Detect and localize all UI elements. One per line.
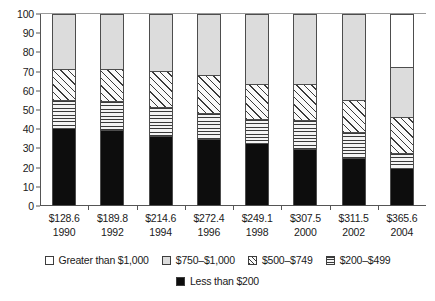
y-axis-tick-label: 30 [23, 142, 34, 154]
x-axis-label-year: 1996 [185, 226, 233, 240]
bar-segment [343, 159, 365, 205]
legend-item[interactable]: Greater than $1,000 [45, 254, 149, 266]
x-axis-label-year: 1994 [137, 226, 185, 240]
x-axis-tick-mark [185, 206, 186, 210]
legend-row-1: Greater than $1,000$750–$1,000$500–$749$… [0, 252, 435, 268]
stacked-bar [293, 14, 317, 206]
bar-segment [246, 85, 268, 119]
y-axis-tick-label: 40 [23, 123, 34, 135]
bar-segment [246, 144, 268, 205]
stacked-bar [52, 14, 76, 206]
x-axis-label-amount: $128.6 [40, 212, 88, 226]
x-axis-label: $307.52000 [281, 212, 329, 239]
legend: Greater than $1,000$750–$1,000$500–$749$… [0, 252, 435, 289]
bar-segment [246, 120, 268, 145]
bar-segment [198, 15, 220, 76]
x-axis-label-year: 2004 [378, 226, 426, 240]
legend-swatch-icon [162, 256, 171, 265]
x-axis-label-amount: $311.5 [330, 212, 378, 226]
legend-swatch-icon [45, 256, 54, 265]
bar-segment [391, 118, 413, 154]
x-axis-tick-mark [137, 206, 138, 210]
bar-segment [150, 108, 172, 137]
bar-segment [391, 154, 413, 169]
bar-segment [198, 76, 220, 114]
x-axis-label: $365.62004 [378, 212, 426, 239]
legend-item[interactable]: $200–$499 [326, 254, 391, 266]
bar-column [293, 14, 317, 206]
legend-item-label: $500–$749 [262, 254, 313, 266]
legend-item[interactable]: $500–$749 [248, 254, 313, 266]
x-axis-label-amount: $214.6 [137, 212, 185, 226]
y-axis-tick-label: 10 [23, 181, 34, 193]
bar-segment [53, 129, 75, 205]
x-axis-label-year: 1992 [88, 226, 136, 240]
x-axis-label-year: 1998 [233, 226, 281, 240]
bar-segment [294, 150, 316, 205]
x-axis-tick-mark [88, 206, 89, 210]
bar-segment [53, 15, 75, 70]
bar-segment [246, 15, 268, 85]
y-axis-tick-label: 0 [28, 200, 34, 212]
stacked-bar-chart: 0102030405060708090100 $128.61990$189.81… [0, 0, 435, 301]
bar-segment [150, 137, 172, 205]
x-axis-label-amount: $189.8 [88, 212, 136, 226]
x-axis-tick-mark [330, 206, 331, 210]
legend-item-label: Less than $200 [190, 275, 259, 287]
stacked-bar [390, 14, 414, 206]
x-axis-label: $311.52002 [330, 212, 378, 239]
stacked-bar [149, 14, 173, 206]
bar-segment [150, 15, 172, 72]
legend-swatch-icon [248, 256, 257, 265]
legend-item-label: $750–$1,000 [176, 254, 235, 266]
bar-segment [391, 169, 413, 205]
bar-segment [391, 15, 413, 68]
x-axis-tick-mark [233, 206, 234, 210]
bar-column [390, 14, 414, 206]
stacked-bar [342, 14, 366, 206]
x-axis-label-amount: $249.1 [233, 212, 281, 226]
x-axis-label: $214.61994 [137, 212, 185, 239]
y-axis-tick-label: 100 [17, 8, 34, 20]
legend-swatch-icon [176, 277, 185, 286]
y-axis-tick-label: 70 [23, 66, 34, 78]
bar-segment [53, 101, 75, 130]
bar-segment [294, 121, 316, 150]
bar-column [100, 14, 124, 206]
bar-column [245, 14, 269, 206]
x-axis-tick-mark [378, 206, 379, 210]
legend-swatch-icon [326, 256, 335, 265]
y-axis-tick-label: 50 [23, 104, 34, 116]
bar-segment [343, 133, 365, 160]
bar-segment [150, 72, 172, 108]
x-axis-tick-mark [281, 206, 282, 210]
x-axis-label-amount: $307.5 [281, 212, 329, 226]
x-axis-label: $249.11998 [233, 212, 281, 239]
bar-segment [101, 70, 123, 102]
bar-segment [198, 114, 220, 141]
bar-column [52, 14, 76, 206]
bar-segment [101, 15, 123, 70]
bar-segment [294, 15, 316, 85]
x-axis-label: $128.61990 [40, 212, 88, 239]
x-axis-label-year: 2000 [281, 226, 329, 240]
x-axis-label: $272.41996 [185, 212, 233, 239]
bar-segment [198, 140, 220, 205]
x-axis-label-amount: $365.6 [378, 212, 426, 226]
stacked-bar [100, 14, 124, 206]
x-axis-label-year: 2002 [330, 226, 378, 240]
legend-item[interactable]: Less than $200 [176, 275, 259, 287]
bars-layer [40, 14, 426, 206]
legend-item[interactable]: $750–$1,000 [162, 254, 235, 266]
x-axis-label-amount: $272.4 [185, 212, 233, 226]
x-axis-label-year: 1990 [40, 226, 88, 240]
x-axis-label: $189.81992 [88, 212, 136, 239]
bar-segment [101, 131, 123, 205]
bar-segment [294, 85, 316, 121]
y-axis-tick-label: 20 [23, 162, 34, 174]
bar-segment [343, 101, 365, 133]
stacked-bar [197, 14, 221, 206]
stacked-bar [245, 14, 269, 206]
y-axis: 0102030405060708090100 [0, 14, 40, 206]
bar-segment [391, 68, 413, 117]
